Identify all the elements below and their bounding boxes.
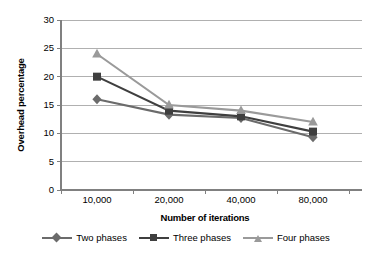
x-axis-tick-label: 20,000 — [154, 194, 183, 205]
legend-item-three-phases[interactable]: Three phases — [139, 232, 231, 243]
legend-label: Four phases — [277, 232, 330, 243]
chart-container: Overhead percentage 051015202530 Number … — [0, 0, 372, 261]
x-axis-tick-label: 40,000 — [226, 194, 255, 205]
x-axis-tick-label: 80,000 — [298, 194, 327, 205]
legend-key-square-icon — [139, 233, 169, 243]
legend-key-triangle-icon — [243, 233, 273, 243]
x-axis-title: Number of iterations — [61, 212, 349, 223]
chart-legend: Two phases Three phases Four phases — [0, 232, 372, 243]
legend-label: Two phases — [76, 232, 127, 243]
x-axis-tick-label: 10,000 — [82, 194, 111, 205]
legend-label: Three phases — [173, 232, 231, 243]
legend-item-four-phases[interactable]: Four phases — [243, 232, 330, 243]
legend-key-diamond-icon — [42, 233, 72, 243]
legend-item-two-phases[interactable]: Two phases — [42, 232, 127, 243]
